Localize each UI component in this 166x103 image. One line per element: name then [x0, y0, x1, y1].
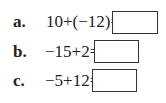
answer-box-c[interactable]	[92, 69, 137, 92]
problem-label: c.	[13, 71, 33, 91]
answer-box-a[interactable]	[112, 11, 158, 34]
problem-label: b.	[13, 42, 33, 62]
problem-expression: 10+(−12)=	[46, 12, 120, 32]
problem-a: a. 10+(−12)=	[13, 10, 120, 34]
problem-expression: −15+2=	[45, 42, 99, 62]
problem-label: a.	[13, 12, 33, 32]
problem-b: b. −15+2=	[13, 40, 99, 64]
problem-c: c. −5+12=	[13, 69, 99, 93]
answer-box-b[interactable]	[94, 40, 139, 63]
